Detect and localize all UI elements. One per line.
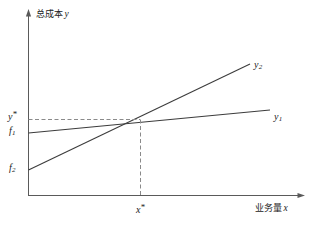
series-label-y2-sub: 2 [258,63,262,71]
x-axis-title-cjk: 业务量 [255,203,283,213]
series-label-y2: y2 [254,60,262,71]
x-axis-title-var: x [283,203,288,213]
ystar-mark: * [12,109,17,119]
fixed-cost-2-sub: 2 [12,166,16,174]
x-axis-arrowhead [298,193,306,198]
y-axis-title: 总成本y [36,9,69,20]
series-label-y1-sub: 1 [278,115,282,123]
series-line-y2 [29,64,251,170]
series-label-y1: y1 [274,112,282,123]
y-axis [26,9,31,196]
y-axis-arrowhead [26,9,31,17]
fixed-cost-2-label: f2 [9,163,16,174]
xstar-mark: * [140,202,145,212]
fixed-cost-1-label: f1 [9,126,16,137]
x-axis-title: 业务量x [255,203,288,214]
x-axis [29,193,306,198]
fixed-cost-1-sub: 1 [12,129,16,137]
y-axis-title-cjk: 总成本 [36,9,64,19]
series-line-y1 [29,110,271,133]
chart-container: 总成本y 业务量x y* f1 f2 x* y2 y1 [0,0,331,225]
ystar-label: y* [8,110,17,122]
xstar-label: x* [136,203,145,215]
y-axis-title-var: y [64,9,69,19]
